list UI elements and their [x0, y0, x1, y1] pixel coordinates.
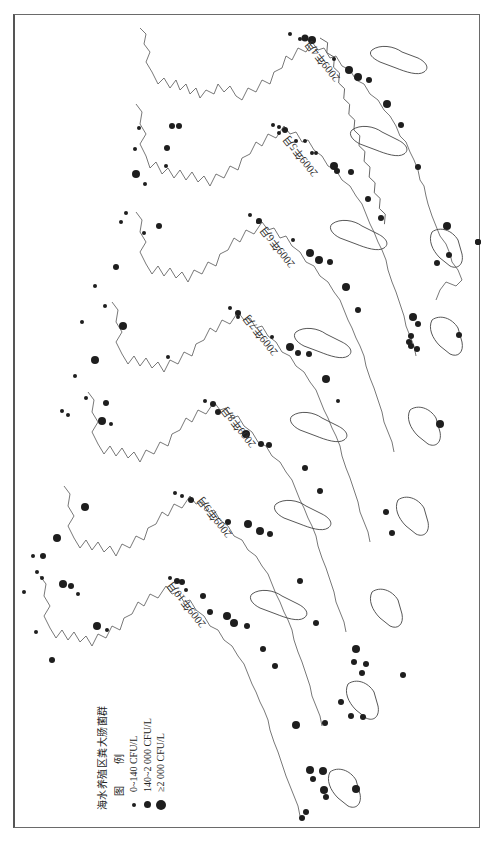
- legend-subtitle: 图 例: [111, 744, 126, 797]
- small-dot-icon: [132, 803, 136, 807]
- large-dot-icon: [156, 800, 166, 810]
- island-outline: [250, 590, 306, 619]
- legend-item-medium: 140~2 000 CFU/L: [142, 718, 153, 810]
- island-outline: [370, 46, 426, 73]
- legend: 海水养殖区粪大肠菌群 图 例 0~140 CFU/L 140~2 000 CFU…: [90, 625, 160, 810]
- island-outline: [290, 412, 346, 441]
- legend-item-large: ≥2 000 CFU/L: [155, 733, 166, 810]
- island-outline: [408, 407, 440, 445]
- legend-item-small: 0~140 CFU/L: [128, 736, 139, 810]
- island-outline: [294, 328, 350, 357]
- medium-dot-icon: [144, 801, 151, 808]
- island-outline: [396, 497, 428, 535]
- island-outline: [370, 589, 402, 627]
- island-outline: [330, 220, 386, 249]
- island-outline: [350, 126, 406, 155]
- map-series: [0, 0, 490, 843]
- map-panel-apr: [283, 36, 425, 224]
- legend-title: 海水养殖区粪大肠菌群: [94, 705, 109, 810]
